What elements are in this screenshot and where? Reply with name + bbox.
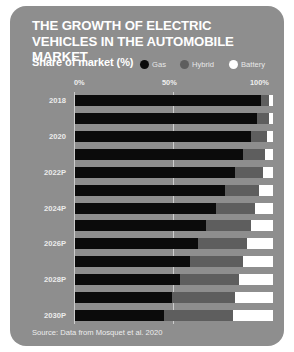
- bar-segment-gas: [75, 185, 225, 196]
- legend-label-battery: Battery: [241, 60, 265, 69]
- bar-segment-hybrid: [190, 256, 243, 267]
- bar-segment-battery: [263, 167, 273, 178]
- bar-segment-gas: [75, 113, 257, 124]
- bar-segment-gas: [75, 220, 206, 231]
- x-axis-tick-100: 100%: [250, 78, 269, 87]
- chart-inner: The growth of electric vehicles in the a…: [10, 6, 284, 346]
- bar-row: [75, 256, 273, 267]
- bar-segment-gas: [75, 292, 172, 303]
- bar-segment-battery: [235, 292, 273, 303]
- bar-segment-hybrid: [172, 292, 235, 303]
- bar-segment-hybrid: [257, 113, 269, 124]
- bar-segment-hybrid: [180, 274, 239, 285]
- y-axis-label-2024P: 2024P: [10, 204, 66, 213]
- y-axis-label-2030P: 2030P: [10, 311, 66, 320]
- legend-swatch-gas-icon: [140, 60, 149, 69]
- x-axis-labels: 0% 50% 100%: [74, 78, 273, 90]
- bar-segment-gas: [75, 310, 164, 321]
- bar-row: [75, 310, 273, 321]
- bar-segment-hybrid: [235, 167, 263, 178]
- chart-card: The growth of electric vehicles in the a…: [10, 6, 284, 346]
- x-axis-tick-0: 0%: [74, 78, 85, 87]
- bar-row: [75, 238, 273, 249]
- bar-segment-gas: [75, 131, 251, 142]
- bar-segment-battery: [247, 238, 273, 249]
- bar-segment-battery: [265, 149, 273, 160]
- bar-segment-gas: [75, 238, 198, 249]
- bar-row: [75, 95, 273, 106]
- bar-segment-battery: [239, 274, 273, 285]
- bar-segment-hybrid: [225, 185, 259, 196]
- chart-subtitle: Share of market (%): [32, 56, 133, 68]
- bar-segment-gas: [75, 167, 235, 178]
- legend-item-hybrid: Hybrid: [180, 57, 214, 71]
- y-axis-label-2020: 2020: [10, 132, 66, 141]
- y-axis-label-2028P: 2028P: [10, 275, 66, 284]
- bar-segment-gas: [75, 256, 190, 267]
- bar-row: [75, 149, 273, 160]
- bar-row: [75, 113, 273, 124]
- bar-segment-hybrid: [216, 203, 256, 214]
- bar-segment-battery: [259, 185, 273, 196]
- bar-segment-gas: [75, 149, 243, 160]
- legend-item-battery: Battery: [229, 57, 265, 71]
- chart-source: Source: Data from Mosquet et al. 2020: [32, 328, 162, 337]
- bar-segment-gas: [75, 203, 216, 214]
- legend-label-hybrid: Hybrid: [192, 60, 214, 69]
- bar-row: [75, 131, 273, 142]
- legend-label-gas: Gas: [152, 60, 166, 69]
- bar-segment-battery: [269, 95, 273, 106]
- legend-row: Share of market (%) Gas Hybrid Battery: [32, 56, 277, 72]
- bar-row: [75, 220, 273, 231]
- legend-swatch-hybrid-icon: [180, 60, 189, 69]
- legend-item-gas: Gas: [140, 57, 166, 71]
- y-axis-label-2018: 2018: [10, 96, 66, 105]
- bar-segment-hybrid: [261, 95, 269, 106]
- bar-row: [75, 167, 273, 178]
- x-axis-tick-50: 50%: [162, 78, 177, 87]
- bar-segment-battery: [233, 310, 273, 321]
- plot-area: [74, 92, 273, 324]
- bar-segment-gas: [75, 274, 180, 285]
- bar-row: [75, 274, 273, 285]
- bar-segment-hybrid: [164, 310, 233, 321]
- legend-swatch-battery-icon: [229, 60, 238, 69]
- bar-segment-hybrid: [243, 149, 265, 160]
- y-axis-label-2022P: 2022P: [10, 168, 66, 177]
- bar-segment-battery: [267, 131, 273, 142]
- bar-segment-battery: [243, 256, 273, 267]
- bar-segment-battery: [251, 220, 273, 231]
- y-axis-label-2026P: 2026P: [10, 239, 66, 248]
- bar-row: [75, 185, 273, 196]
- bar-segment-hybrid: [206, 220, 252, 231]
- bar-segment-hybrid: [251, 131, 267, 142]
- bar-segment-battery: [269, 113, 273, 124]
- bar-segment-hybrid: [198, 238, 248, 249]
- bar-segment-battery: [255, 203, 273, 214]
- bar-segment-gas: [75, 95, 261, 106]
- bar-row: [75, 203, 273, 214]
- bar-row: [75, 292, 273, 303]
